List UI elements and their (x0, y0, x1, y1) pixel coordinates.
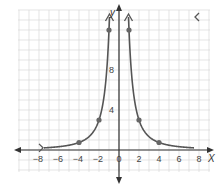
axes (14, 4, 214, 184)
data-point (136, 117, 141, 122)
x-tick-label: 8 (196, 154, 201, 164)
x-tick-label: 2 (136, 154, 141, 164)
data-point (106, 27, 111, 32)
x-tick-label: 0 (116, 154, 121, 164)
data-point (76, 140, 81, 145)
x-tick-label: −2 (93, 154, 103, 164)
x-tick-label: −6 (53, 154, 63, 164)
y-axis-down-arrow-icon (116, 177, 122, 184)
y-tick-label: 8 (109, 65, 114, 75)
graph-canvas: −8−6−4−20246848 X y (0, 0, 223, 193)
right-branch-curve (129, 17, 195, 148)
x-tick-label: −4 (73, 154, 83, 164)
data-point (96, 117, 101, 122)
y-axis-label: y (109, 7, 116, 18)
y-axis-up-arrow-icon (116, 4, 122, 11)
left-branch-curve (44, 17, 110, 148)
data-point (156, 140, 161, 145)
data-point (126, 27, 131, 32)
x-tick-label: 6 (176, 154, 181, 164)
x-tick-label: 4 (156, 154, 161, 164)
y-tick-label: 4 (109, 105, 114, 115)
x-axis-label: X (207, 153, 215, 164)
left-end-arrow-icon (39, 144, 43, 152)
x-tick-label: −8 (33, 154, 43, 164)
x-axis-left-arrow-icon (14, 147, 21, 153)
